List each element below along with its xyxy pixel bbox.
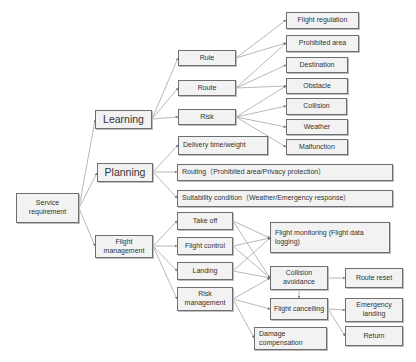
node-learning: Learning: [95, 110, 152, 129]
node-flight-cancelling: Flight cancelling: [270, 298, 328, 320]
node-collision-avoidance: Collision avoidance: [270, 266, 328, 290]
node-malfunction: Malfunction: [286, 139, 348, 155]
node-flight-control: Flight control: [177, 237, 233, 255]
node-flight-management: Flight management: [95, 235, 153, 258]
node-weather: Weather: [286, 119, 348, 135]
node-delivery-time-weight: Delivery time/weight: [178, 136, 268, 155]
node-risk-management: Risk management: [177, 287, 233, 311]
node-suitability-condition: Suitability condition（Weather/Emergency …: [177, 190, 393, 207]
node-take-off: Take off: [177, 212, 233, 230]
node-collision: Collision: [286, 98, 347, 115]
node-flight-monitoring: Flight monitoring (Flight data logging): [270, 222, 390, 253]
node-planning: Planning: [97, 163, 153, 182]
node-rule: Rule: [178, 50, 236, 66]
node-service-requirement: Service requirement: [16, 193, 79, 223]
node-routing: Routing（Prohibited area/Privacy protecti…: [177, 164, 393, 181]
node-risk: Risk: [178, 109, 236, 125]
node-destination: Destination: [286, 57, 348, 73]
node-prohibited-area: Prohibited area: [286, 35, 359, 52]
node-flight-regulation: Flight regulation: [286, 12, 359, 29]
node-landing: Landing: [177, 262, 233, 280]
node-route: Route: [178, 80, 236, 96]
node-damage-compensation: Damage compensation: [254, 327, 327, 350]
node-route-reset: Route reset: [345, 268, 403, 288]
node-emergency-landing: Emergency landing: [345, 298, 403, 322]
node-obstacle: Obstacle: [286, 78, 348, 94]
node-return: Return: [345, 326, 403, 346]
